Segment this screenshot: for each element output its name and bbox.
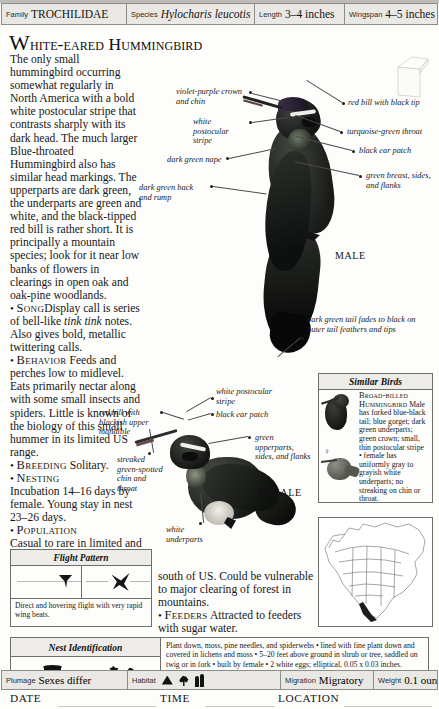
population-continued-block: south of US. Could be vulnerable to majo… <box>158 570 323 635</box>
callout-dot <box>352 150 355 153</box>
callout-dot <box>301 337 304 340</box>
attribute-migration[interactable]: Migration Migratory <box>281 670 374 690</box>
record-line-time[interactable] <box>205 706 275 707</box>
similar-bird-name-1: Broad-billed Hummingbird <box>359 391 408 409</box>
shrub-icon <box>178 674 190 686</box>
species-account-column: The only small hummingbird occurring som… <box>10 53 142 577</box>
section-heading-behavior: Behavior <box>17 353 67 367</box>
section-heading-song: Song <box>17 301 45 315</box>
range-map <box>318 517 433 627</box>
flight-pattern-box: Flight Pattern Direct and hovering fligh… <box>10 549 152 627</box>
callout-male-postocular-stripe: white postocular stripe <box>193 117 245 146</box>
flight-pattern-text: Direct and hovering flight with very rap… <box>11 599 151 621</box>
attributes-bar: Plumage Sexes differ Habitat Migration M… <box>1 670 438 690</box>
callout-female-postocular-stripe: white postocular stripe <box>216 387 290 406</box>
callout-dot <box>148 452 151 455</box>
attribute-plumage[interactable]: Plumage Sexes differ <box>1 670 128 690</box>
similar-bird-entry-1: Broad-billed Hummingbird Male has forked… <box>359 392 429 452</box>
callout-female-upperparts: green upperparts, sides, and flanks <box>255 433 311 462</box>
record-line-date[interactable] <box>58 706 156 707</box>
section-heading-breeding: Breeding <box>17 458 67 472</box>
callout-dot <box>211 397 214 400</box>
similar-bird-entry-2: • female has uniformly gray to grayish w… <box>359 452 429 504</box>
attribute-label-plumage: Plumage <box>6 676 36 685</box>
mountain-icon <box>162 676 173 685</box>
similar-bird-thumbnail-1 <box>321 392 357 436</box>
attribute-value-weight: 0.1 ounce <box>404 674 438 686</box>
callout-male-tail: dark green tail fades to black on outer … <box>307 315 431 334</box>
section-song: • SongDisplay call is series of bell-lik… <box>10 302 142 354</box>
flight-pattern-panel-hovering <box>81 566 152 598</box>
nest-identification-heading: Nest Identification <box>11 638 160 657</box>
attribute-value-plumage: Sexes differ <box>39 674 92 686</box>
callout-male-throat: turquoise-green throat <box>347 127 437 137</box>
callout-male-ear-patch: black ear patch <box>359 146 435 156</box>
header-value-species: Hylocharis leucotis <box>161 8 251 20</box>
header-label-length: Length <box>259 10 282 19</box>
callout-dot <box>248 436 251 439</box>
callout-male-back-rump: dark green back and rump <box>139 183 207 202</box>
attribute-label-habitat: Habitat <box>132 676 156 685</box>
attribute-value-migration: Migratory <box>319 674 364 686</box>
callout-female-ear-patch: black ear patch <box>216 410 290 420</box>
field-guide-page: Family TROCHILIDAE Species Hylocharis le… <box>0 0 439 709</box>
label-female: FEMALE <box>258 487 302 498</box>
similar-birds-body: ♀ Broad-billed Hummingbird Male has fork… <box>319 390 432 504</box>
callout-female-bill: red bill with blackish upper mandible <box>99 408 157 437</box>
header-label-species: Species <box>131 10 158 19</box>
similar-bird-thumbnail-2: ♀ <box>321 448 357 492</box>
callout-male-bill: red bill with black tip <box>348 98 424 108</box>
attribute-label-migration: Migration <box>285 676 316 685</box>
callout-female-underparts: white underparts <box>166 525 208 544</box>
section-heading-nesting: Nesting <box>17 471 60 485</box>
flight-pattern-heading: Flight Pattern <box>11 550 151 566</box>
flight-path-line <box>17 581 81 582</box>
flight-arrow-left <box>86 581 108 582</box>
callout-dot <box>340 131 343 134</box>
header-value-wingspan: 4–5 inches <box>385 8 435 20</box>
section-text-nesting: Incubation 14–16 days by female. Young s… <box>10 485 132 524</box>
thumb1-head-shape <box>333 394 349 408</box>
tree-trunk-icon <box>200 674 204 687</box>
description-paragraph: The only small hummingbird occurring som… <box>10 53 142 302</box>
callout-dot <box>342 102 345 105</box>
record-line-location[interactable] <box>344 706 432 707</box>
header-label-family: Family <box>6 10 28 19</box>
header-field-family[interactable]: Family TROCHILIDAE <box>1 3 127 25</box>
male-tail-tip-shape <box>267 310 312 355</box>
header-field-length[interactable]: Length 3–4 inches <box>255 3 345 25</box>
callout-female-chin-throat: streaked green-spotted chin and throat <box>117 455 167 493</box>
flight-pattern-panel-direct <box>11 566 81 598</box>
range-map-svg <box>319 518 432 626</box>
label-male: MALE <box>335 250 366 261</box>
similar-birds-box: Similar Birds ♀ Broad-billed Hummingbird… <box>318 373 433 503</box>
flight-pattern-diagrams <box>11 566 151 599</box>
attribute-habitat[interactable]: Habitat <box>128 670 281 690</box>
attribute-label-weight: Weight <box>378 676 401 685</box>
nest-shape-outline-icon <box>394 55 434 99</box>
section-heading-population: Population <box>17 523 77 537</box>
sighting-record-row: DATE TIME LOCATION <box>0 690 439 709</box>
header-value-family: TROCHILIDAE <box>31 8 108 20</box>
callout-dot <box>199 522 202 525</box>
habitat-icon-group <box>162 674 204 687</box>
record-label-time: TIME <box>160 692 190 704</box>
page-body: WWhite-eared Hummingbirdhite-eared Hummi… <box>0 25 439 668</box>
section-text-behavior: Feeds and perches low to midlevel. Eats … <box>10 354 140 459</box>
flight-arrow-right <box>130 581 150 582</box>
callout-dot <box>211 413 214 416</box>
attribute-weight[interactable]: Weight 0.1 ounce <box>374 670 438 690</box>
callout-dot <box>359 175 362 178</box>
header-field-wingspan[interactable]: Wingspan 4–5 inches <box>345 3 438 25</box>
similar-bird-text-2: • female has uniformly gray to grayish w… <box>359 451 420 503</box>
taxonomy-header: Family TROCHILIDAE Species Hylocharis le… <box>1 3 438 25</box>
header-field-species[interactable]: Species Hylocharis leucotis <box>127 3 255 25</box>
female-ear-patch-shape <box>182 452 198 461</box>
section-feeders: • Feeders Attracted to feeders with suga… <box>158 609 323 635</box>
female-symbol-icon: ♀ <box>324 448 330 457</box>
population-continued-text: south of US. Could be vulnerable to majo… <box>158 570 323 609</box>
bird-silhouette-icon <box>112 573 130 591</box>
similar-bird-text-1: Male has forked blue-black tail; blue go… <box>359 400 426 452</box>
open-woodland-icon <box>195 674 204 687</box>
callout-male-crown: violet-purple crown and chin <box>176 87 246 106</box>
